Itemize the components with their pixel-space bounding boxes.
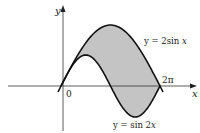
y-axis-arrow-icon	[61, 5, 66, 12]
tick-label-2pi: 2π	[162, 75, 174, 85]
graph: y x 0 2π y = 2sin x y = sin 2x	[0, 0, 200, 133]
y-axis-label: y	[54, 5, 61, 16]
curve-label-upper: y = 2sin x	[143, 36, 187, 46]
curve-label-lower: y = sin 2x	[112, 120, 156, 130]
x-axis-label: x	[192, 88, 198, 99]
origin-label: 0	[66, 89, 72, 99]
